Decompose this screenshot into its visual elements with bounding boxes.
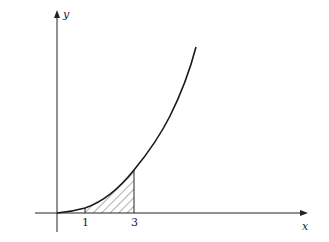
- shaded-region: [85, 170, 134, 213]
- x-axis-label: x: [302, 220, 309, 233]
- tick-label-1: 1: [82, 216, 89, 229]
- y-axis-arrow-icon: [54, 10, 60, 18]
- tick-label-3: 3: [131, 216, 138, 229]
- plot-canvas: y x 1 3: [0, 0, 329, 242]
- y-axis-label: y: [62, 8, 70, 21]
- x-axis-arrow-icon: [300, 210, 308, 216]
